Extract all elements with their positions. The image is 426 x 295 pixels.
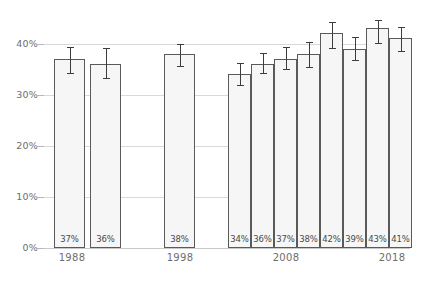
bar: 37% <box>274 59 297 248</box>
error-bar-stem <box>70 47 71 73</box>
error-bar-cap-upper <box>237 63 244 64</box>
error-bar-cap-lower <box>352 60 359 61</box>
error-bar-stem <box>355 37 356 60</box>
bar-value-label: 39% <box>344 234 365 244</box>
bar: 34% <box>228 74 251 248</box>
y-axis: 0%10%20%30%40% <box>0 18 38 248</box>
error-bar-stem <box>332 22 333 48</box>
error-bar-cap-lower <box>237 85 244 86</box>
y-axis-tick-mark <box>36 95 44 96</box>
bar-value-label: 37% <box>55 234 84 244</box>
x-axis-baseline <box>44 248 410 249</box>
error-bar-stem <box>401 27 402 52</box>
x-axis-tick-label: 2018 <box>362 252 422 263</box>
error-bar-cap-upper <box>375 20 382 21</box>
error-bar-stem <box>240 63 241 85</box>
bar: 36% <box>90 64 121 248</box>
error-bar-cap-lower <box>67 73 74 74</box>
error-bar-cap-upper <box>103 48 110 49</box>
error-bar-cap-upper <box>260 53 267 54</box>
bar: 38% <box>164 54 195 248</box>
y-axis-tick-label: 40% <box>6 38 38 49</box>
y-axis-tick-label: 30% <box>6 89 38 100</box>
bar-value-label: 41% <box>390 234 411 244</box>
bar-value-label: 36% <box>91 234 120 244</box>
y-axis-tick-label: 0% <box>6 242 38 253</box>
bar-value-label: 42% <box>321 234 342 244</box>
y-axis-tick-mark <box>36 146 44 147</box>
error-bar-cap-lower <box>177 66 184 67</box>
error-bar-cap-upper <box>398 27 405 28</box>
error-bar-cap-lower <box>260 73 267 74</box>
error-bar-stem <box>286 47 287 68</box>
error-bar-cap-upper <box>329 22 336 23</box>
y-axis-tick-label: 20% <box>6 140 38 151</box>
error-bar-cap-lower <box>398 51 405 52</box>
y-axis-tick-mark <box>36 44 44 45</box>
error-bar-cap-upper <box>67 47 74 48</box>
plot-area: 37%36%38%34%36%37%38%42%39%43%41% <box>44 18 410 248</box>
y-axis-tick-mark <box>36 248 44 249</box>
error-bar-cap-lower <box>283 69 290 70</box>
x-axis-tick-label: 1988 <box>42 252 102 263</box>
error-bar-stem <box>378 20 379 43</box>
error-bar-stem <box>180 44 181 66</box>
bar-value-label: 43% <box>367 234 388 244</box>
bar-value-label: 37% <box>275 234 296 244</box>
error-bar-cap-lower <box>375 43 382 44</box>
y-axis-tick-mark <box>36 197 44 198</box>
error-bar-stem <box>106 48 107 78</box>
error-bar-stem <box>309 42 310 67</box>
bar-value-label: 38% <box>165 234 194 244</box>
y-axis-tick-label: 10% <box>6 191 38 202</box>
error-bar-cap-upper <box>177 44 184 45</box>
bar-value-label: 34% <box>229 234 250 244</box>
bar: 39% <box>343 49 366 248</box>
error-bar-stem <box>263 53 264 73</box>
bar: 38% <box>297 54 320 248</box>
error-bar-cap-upper <box>283 47 290 48</box>
bar-chart: 0%10%20%30%40% 37%36%38%34%36%37%38%42%3… <box>0 0 426 295</box>
error-bar-cap-lower <box>306 67 313 68</box>
bar: 36% <box>251 64 274 248</box>
x-axis-tick-label: 1998 <box>150 252 210 263</box>
error-bar-cap-lower <box>329 48 336 49</box>
bar: 41% <box>389 38 412 248</box>
error-bar-cap-lower <box>103 78 110 79</box>
x-axis-tick-label: 2008 <box>256 252 316 263</box>
error-bar-cap-upper <box>352 37 359 38</box>
bar: 42% <box>320 33 343 248</box>
bar-value-label: 38% <box>298 234 319 244</box>
error-bar-cap-upper <box>306 42 313 43</box>
bar: 43% <box>366 28 389 248</box>
bar: 37% <box>54 59 85 248</box>
bar-value-label: 36% <box>252 234 273 244</box>
